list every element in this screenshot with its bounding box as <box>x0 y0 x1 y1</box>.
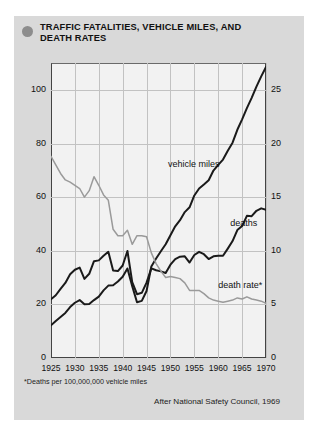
right-axis-tick-label: 5 <box>271 298 301 308</box>
plot-area <box>51 63 266 358</box>
series-label-vehicle-miles: vehicle miles <box>168 159 220 169</box>
chart-page: TRAFFIC FATALITIES, VEHICLE MILES, AND D… <box>0 0 318 435</box>
right-axis-tick-label: 20 <box>271 138 301 148</box>
gridline-vertical <box>266 63 267 358</box>
attribution: After National Safety Council, 1969 <box>0 397 280 406</box>
filled-circle-bullet-icon <box>22 26 33 37</box>
series-lines <box>51 63 266 358</box>
left-axis-tick-label: 80 <box>12 138 46 148</box>
right-axis-tick-label: 0 <box>271 352 301 362</box>
x-axis-tick-label: 1970 <box>251 363 281 373</box>
left-axis-tick-label: 20 <box>12 298 46 308</box>
series-label-death-rate-: death rate* <box>218 280 262 290</box>
footnote: *Deaths per 100,000,000 vehicle miles <box>24 377 147 386</box>
right-axis-tick-label: 15 <box>271 191 301 201</box>
series-label-deaths: deaths <box>230 218 257 228</box>
right-axis-tick-label: 25 <box>271 84 301 94</box>
page-title: TRAFFIC FATALITIES, VEHICLE MILES, AND D… <box>40 22 276 45</box>
left-axis-tick-label: 100 <box>12 84 46 94</box>
left-axis-tick-label: 0 <box>12 352 46 362</box>
left-axis-tick-label: 40 <box>12 245 46 255</box>
left-axis-tick-label: 60 <box>12 191 46 201</box>
right-axis-tick-label: 10 <box>271 245 301 255</box>
